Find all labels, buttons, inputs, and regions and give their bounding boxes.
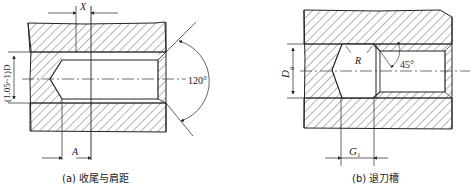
hatched-body-top (28, 22, 166, 52)
caption-b: (b) 退刀槽 (352, 172, 399, 184)
figure-a-thread-runout: X A (1.05~1)D 120° (a) 收尾与肩距 (2, 1, 209, 184)
angle-45-label: 45° (400, 59, 414, 70)
angle-120-label: 120° (188, 75, 207, 86)
figure-b-undercut: D g R 45° G 1 (b) 退刀槽 (279, 10, 470, 184)
dim-dg-label: D (279, 70, 291, 79)
dim-dg-subscript: g (287, 66, 295, 70)
dim-x-label: X (79, 1, 87, 12)
dim-r-label: R (354, 55, 361, 66)
hatched-body-bottom (30, 103, 166, 132)
dim-d-label: (1.05~1)D (2, 64, 12, 102)
caption-a: (a) 收尾与肩距 (62, 172, 129, 184)
technical-drawing: X A (1.05~1)D 120° (a) 收尾与肩距 (0, 0, 474, 189)
dim-g1-subscript: 1 (357, 151, 361, 159)
dim-g1-label: G (349, 145, 357, 157)
dim-a-label: A (71, 146, 79, 157)
